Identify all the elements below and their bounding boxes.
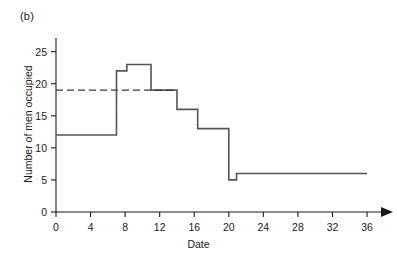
y-tick-label: 25	[35, 46, 47, 58]
x-tick-label: 4	[88, 221, 94, 233]
x-tick-label: 12	[154, 221, 166, 233]
x-tick-label: 36	[361, 221, 373, 233]
y-tick-label: 20	[35, 78, 47, 90]
chart-plot-area: 051015202504812162024283236	[0, 0, 397, 260]
x-tick-label: 0	[53, 221, 59, 233]
figure-panel-b: (b) Number of men occupied Date 05101520…	[0, 0, 397, 260]
x-tick-label: 8	[122, 221, 128, 233]
x-tick-label: 16	[188, 221, 200, 233]
x-tick-label: 20	[223, 221, 235, 233]
x-tick-label: 32	[327, 221, 339, 233]
y-tick-label: 15	[35, 110, 47, 122]
y-tick-label: 0	[41, 206, 47, 218]
y-tick-label: 10	[35, 142, 47, 154]
step-line-series	[56, 64, 367, 179]
x-axis-arrow-icon	[381, 207, 393, 217]
x-tick-label: 28	[292, 221, 304, 233]
y-tick-label: 5	[41, 174, 47, 186]
x-tick-label: 24	[258, 221, 270, 233]
